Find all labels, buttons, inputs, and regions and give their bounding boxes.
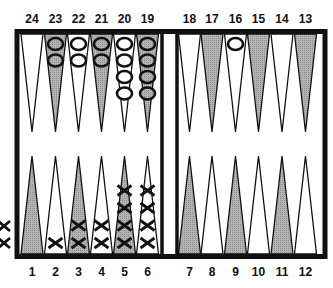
point-label-16: 16 — [229, 12, 243, 26]
point-label-14: 14 — [275, 12, 289, 26]
point-label-17: 17 — [205, 12, 219, 26]
checker-o[interactable] — [228, 38, 243, 50]
checker-o[interactable] — [117, 71, 132, 83]
point-label-7: 7 — [186, 265, 193, 279]
point-label-1: 1 — [29, 265, 36, 279]
borne-off-checker-x — [0, 221, 10, 231]
point-label-22: 22 — [72, 12, 86, 26]
checker-o[interactable] — [48, 38, 63, 50]
checker-o[interactable] — [71, 55, 86, 67]
checker-o[interactable] — [94, 55, 109, 67]
point-label-20: 20 — [118, 12, 132, 26]
point-label-9: 9 — [232, 265, 239, 279]
point-label-4: 4 — [98, 265, 105, 279]
point-label-6: 6 — [144, 265, 151, 279]
checker-o[interactable] — [117, 55, 132, 67]
point-label-24: 24 — [25, 12, 39, 26]
point-label-3: 3 — [75, 265, 82, 279]
point-label-21: 21 — [95, 12, 109, 26]
point-label-10: 10 — [252, 265, 266, 279]
point-label-2: 2 — [52, 265, 59, 279]
checker-o[interactable] — [94, 38, 109, 50]
point-label-8: 8 — [209, 265, 216, 279]
point-label-23: 23 — [49, 12, 63, 26]
checker-o[interactable] — [71, 38, 86, 50]
checker-o[interactable] — [140, 55, 155, 67]
checker-o[interactable] — [117, 88, 132, 100]
checker-o[interactable] — [140, 71, 155, 83]
point-label-13: 13 — [299, 12, 313, 26]
checker-o[interactable] — [140, 88, 155, 100]
checker-o[interactable] — [140, 38, 155, 50]
point-label-11: 11 — [276, 265, 289, 279]
point-label-15: 15 — [252, 12, 266, 26]
checker-o[interactable] — [117, 38, 132, 50]
checker-o[interactable] — [48, 55, 63, 67]
point-label-5: 5 — [121, 265, 128, 279]
point-label-12: 12 — [299, 265, 313, 279]
backgammon-board: 242322212019181716151413123456789101112 — [0, 0, 333, 288]
point-label-18: 18 — [183, 12, 197, 26]
borne-off-checker-x — [0, 238, 10, 248]
point-label-19: 19 — [141, 12, 155, 26]
